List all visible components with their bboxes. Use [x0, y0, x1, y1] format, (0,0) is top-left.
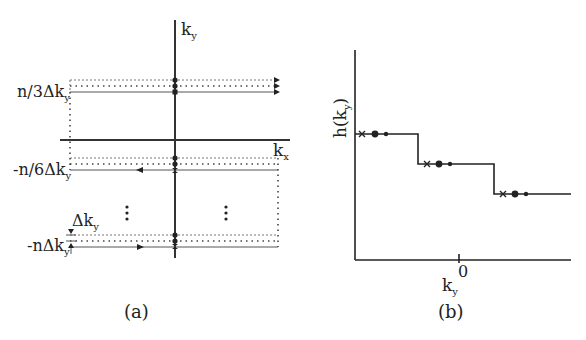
zero-tick-label: 0 [458, 262, 468, 281]
row-group-middle [70, 155, 278, 173]
row-label-n6: -n/6Δky [13, 160, 72, 181]
caption-b: (b) [438, 301, 464, 322]
arrow-right-icon [274, 89, 280, 95]
row-group-top [70, 77, 280, 95]
row-label-n3: n/3Δky [17, 82, 70, 103]
arrow-right-icon [137, 244, 144, 250]
ellipsis-right [224, 205, 227, 220]
step-function [355, 134, 571, 194]
row-group-bottom [66, 229, 278, 254]
figure: ky kx n/3Δky -n/6Δky -nΔky Δky (a) [0, 0, 586, 340]
spacing-label: Δky [72, 211, 99, 232]
kx-axis-label: kx [273, 140, 289, 162]
caption-a: (a) [124, 301, 149, 322]
ky-axis-label: ky [181, 19, 197, 41]
panel-a: ky kx n/3Δky -n/6Δky -nΔky Δky (a) [13, 19, 290, 322]
ellipsis-left [125, 205, 128, 220]
x-axis-label-b: ky [442, 275, 458, 297]
panel-b: h(ky) 0 ky (b) [330, 50, 571, 322]
arrow-left-icon [136, 167, 143, 173]
y-axis-label-b: h(ky) [330, 98, 352, 138]
arrow-right-icon [274, 77, 280, 83]
arrow-right-icon [274, 83, 280, 89]
row-label-n: -nΔky [27, 236, 70, 257]
